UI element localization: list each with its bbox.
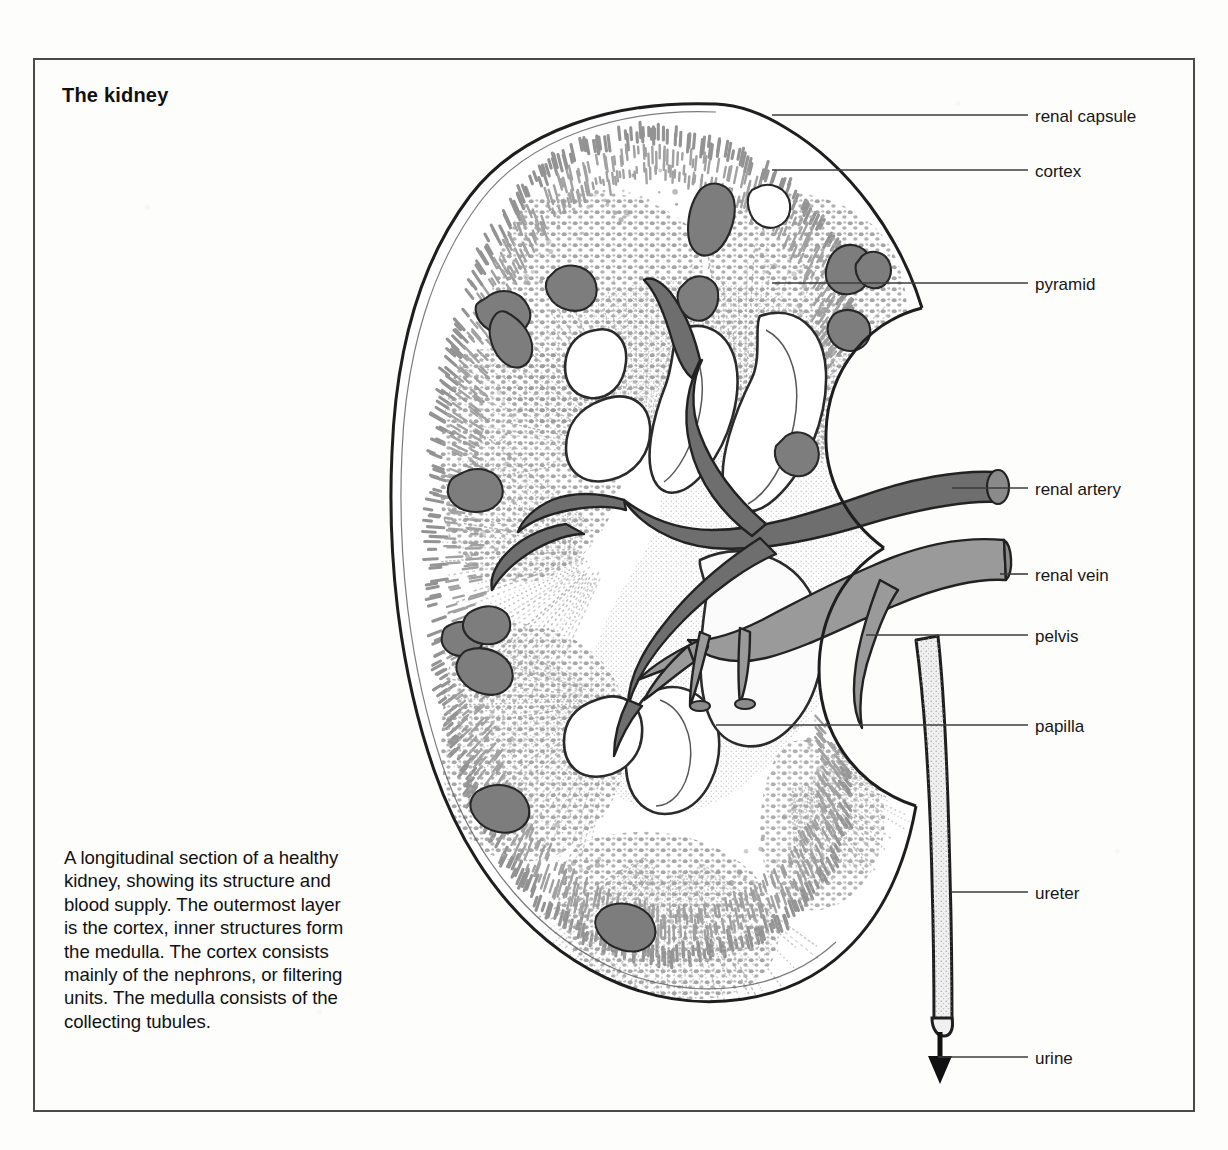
label-urine: urine [1035,1050,1073,1067]
artery-cut-end [987,470,1009,504]
label-cortex: cortex [1035,163,1081,180]
label-renal-artery: renal artery [1035,481,1121,498]
label-pyramid: pyramid [1035,276,1095,293]
label-ureter: ureter [1035,885,1079,902]
label-papilla: papilla [1035,718,1084,735]
papilla-mid [565,329,626,398]
ureter-tube [916,636,953,1036]
label-renal-capsule: renal capsule [1035,108,1136,125]
urine-flow-arrow [928,1032,952,1084]
label-pelvis: pelvis [1035,628,1078,645]
label-renal-vein: renal vein [1035,567,1109,584]
pyramid-marker-vessel [775,432,819,476]
